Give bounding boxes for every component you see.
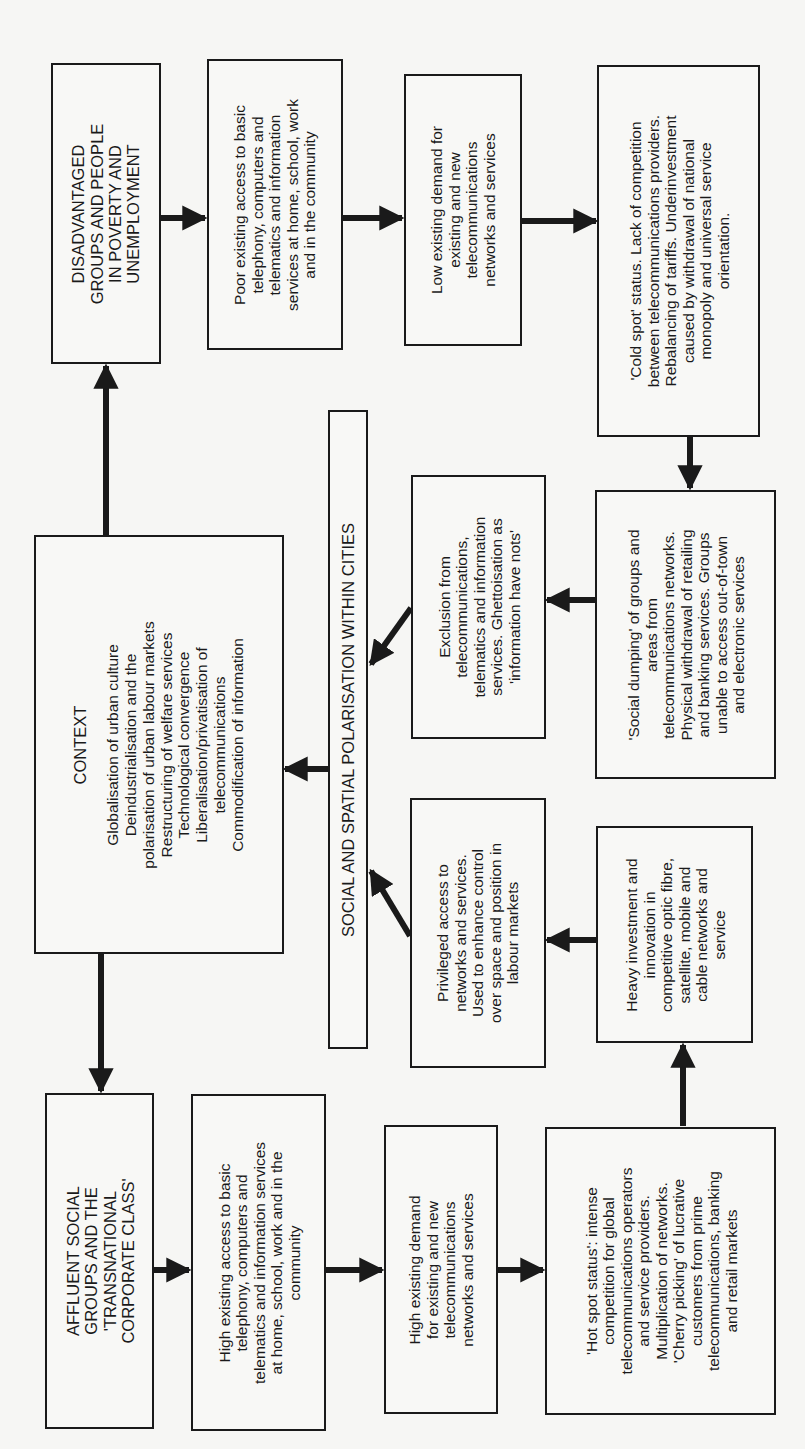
node-text-line: customers from prime (687, 1196, 705, 1346)
node-text-line: Exclusion from (435, 556, 453, 658)
node-high-access: High existing access to basic telephony,… (191, 1094, 326, 1431)
node-text-line: IN POVERTY AND (106, 145, 124, 283)
node-text-line: telephony, computers and (232, 1174, 250, 1351)
node-text-line: and electronic services (729, 556, 747, 714)
node-text-line: 'information have nots' (505, 530, 523, 684)
node-text-line: cable networks and (692, 868, 710, 1002)
node-text-line: telephony, computers and (249, 116, 267, 293)
node-text-line: Low existing demand for (428, 126, 446, 294)
node-text-line: telematics and information (470, 517, 488, 698)
node-text-line: unable to access out-of-town (712, 535, 730, 733)
node-text-line: telecommunications networks. (659, 531, 677, 739)
node-disadvantaged: DISADVANTAGED GROUPS AND PEOPLE IN POVER… (51, 63, 161, 364)
node-context: CONTEXT Globalisation of urban culture D… (34, 535, 284, 954)
node-text-line: AFFLUENT SOCIAL (63, 1186, 81, 1336)
node-text-line: competitive optic fibre, (657, 857, 675, 1011)
node-text-line: between telecommunications providers. (644, 115, 662, 387)
node-text-line: for existing and new (424, 1201, 442, 1339)
node-text-line: competition for global (599, 1197, 617, 1344)
context-item: telecommunications (211, 621, 229, 868)
node-text-line: DISADVANTAGED (69, 144, 87, 283)
node-text-line: networks and services. (452, 854, 470, 1012)
node-privileged: Privileged access to networks and servic… (410, 798, 546, 1068)
node-text-line: 'Social dumping' of groups and (624, 529, 642, 740)
node-text-line: and service providers. (634, 1195, 652, 1347)
node-text-line: labour markets (504, 882, 522, 985)
node-text-line: orientation. (714, 213, 732, 290)
node-text-line: and retail markets (722, 1209, 740, 1332)
node-text-line: networks and services (481, 133, 499, 286)
node-heavy-investment: Heavy investment and innovation in compe… (596, 826, 753, 1043)
node-poor-access: Poor existing access to basic telephony,… (207, 59, 343, 350)
node-text-line: areas from (642, 597, 660, 671)
node-text-line: 'Hot spot status': intense (582, 1187, 600, 1355)
context-item: Technological convergence (175, 621, 193, 868)
context-item: Commodification of information (229, 621, 247, 868)
arrow-privileged-to-polarisation (371, 871, 410, 936)
node-text-line: telecommunications (463, 142, 481, 279)
node-text-line: service (710, 910, 728, 959)
context-items: Globalisation of urban culture Deindustr… (104, 621, 247, 868)
node-text-line: telecommunications, (452, 536, 470, 677)
node-text-line: existing and new (446, 152, 464, 267)
node-text-line: CORPORATE CLASS' (118, 1178, 136, 1343)
node-text-line: caused by withdrawal of national (679, 139, 697, 363)
node-text-line: GROUPS AND PEOPLE (88, 123, 106, 304)
node-text-line: Multiplication of networks. (652, 1182, 670, 1359)
node-text-line: Poor existing access to basic (231, 105, 249, 305)
node-text-line: Heavy investment and (622, 858, 640, 1011)
context-item: Liberalisation/privatisation of (193, 621, 211, 868)
node-exclusion: Exclusion from telecommunications, telem… (411, 475, 546, 739)
node-text-line: over space and position in (487, 843, 505, 1023)
node-text-line: Used to enhance control (469, 849, 487, 1017)
node-text-line: Physical withdrawal of retailing (677, 529, 695, 740)
node-text-line: telecommunications operators (617, 1168, 635, 1375)
node-text-line: monopoly and universal service (696, 142, 714, 359)
node-text-line: telecommunications (441, 1201, 459, 1338)
node-text-line: at home, school, work and in the (267, 1151, 285, 1374)
node-text-line: Privileged access to (434, 864, 452, 1002)
node-text-line: High existing access to basic (215, 1163, 233, 1362)
node-text-line: 'Cherry picking' of lucrative (669, 1179, 687, 1363)
node-text-line: and in the community (301, 131, 319, 278)
context-title: CONTEXT (71, 705, 90, 784)
node-text-line: community (285, 1225, 303, 1300)
context-item: Restructuring of welfare services (158, 621, 176, 868)
node-text-line: satellite, mobile and (675, 866, 693, 1003)
node-text-line: innovation in (640, 891, 658, 978)
node-polarisation: SOCIAL AND SPATIAL POLARISATION WITHIN C… (328, 410, 368, 1049)
context-item: Globalisation of urban culture (104, 621, 122, 868)
node-text-line: networks and services (459, 1193, 477, 1346)
node-text-line: GROUPS AND THE (81, 1187, 99, 1334)
node-affluent: AFFLUENT SOCIAL GROUPS AND THE 'TRANSNAT… (45, 1093, 154, 1429)
node-text-line: Rebalancing of tariffs. Underinvestment (661, 115, 679, 386)
node-text-line: services at home, school, work (284, 99, 302, 311)
node-text-line: telematics and information (266, 114, 284, 295)
node-text-line: telecommunications, banking (704, 1171, 722, 1371)
node-text-line: 'TRANSNATIONAL (100, 1191, 118, 1331)
arrow-exclusion-to-polarisation (371, 608, 411, 664)
node-text-line: High existing demand (406, 1195, 424, 1344)
node-cold-spot: 'Cold spot' status. Lack of competition … (597, 65, 760, 437)
context-item: polarisation of urban labour markets (140, 621, 158, 868)
node-text-line: services. Ghettoisation as (487, 518, 505, 695)
node-social-dumping: 'Social dumping' of groups and areas fro… (595, 490, 776, 779)
node-text-line: 'Cold spot' status. Lack of competition (626, 121, 644, 380)
node-text-line: and banking services. Groups (694, 532, 712, 737)
node-hot-spot: 'Hot spot status': intense competition f… (545, 1127, 776, 1415)
node-text-line: telematics and information services (250, 1141, 268, 1383)
context-item: Deindustrialisation and the (122, 621, 140, 868)
node-text-line: UNEMPLOYMENT (124, 144, 142, 283)
node-low-demand: Low existing demand for existing and new… (404, 74, 522, 346)
polarisation-label: SOCIAL AND SPATIAL POLARISATION WITHIN C… (339, 522, 358, 936)
node-high-demand: High existing demand for existing and ne… (384, 1125, 498, 1414)
